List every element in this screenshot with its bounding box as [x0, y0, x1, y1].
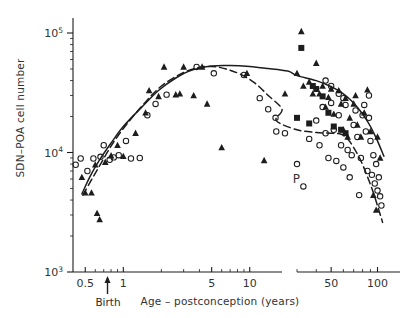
- data-point-triangle: [325, 94, 332, 100]
- data-point-circle: [371, 152, 376, 157]
- data-point-circle: [282, 131, 287, 136]
- data-point-circle: [116, 152, 121, 157]
- data-point-circle: [363, 129, 368, 134]
- data-point-circle: [334, 158, 339, 163]
- data-point-square: [313, 86, 319, 92]
- data-point-triangle: [364, 86, 371, 92]
- data-point-triangle: [346, 114, 353, 120]
- data-point-triangle: [282, 90, 289, 96]
- data-point-square: [320, 93, 326, 99]
- data-point-circle: [373, 161, 378, 166]
- data-point-circle: [257, 95, 262, 100]
- data-point-square: [325, 110, 331, 116]
- figure-sdn-poa-cell-number: 1031041050.5151050100P SDN–POA cell numb…: [0, 0, 410, 318]
- data-point-circle: [347, 175, 352, 180]
- data-point-circle: [274, 129, 279, 134]
- x-tick-label: 100: [367, 277, 388, 290]
- data-point-square: [306, 120, 312, 126]
- data-point-triangle: [180, 63, 187, 69]
- data-point-circle: [323, 78, 328, 83]
- data-point-circle: [137, 155, 142, 160]
- p-point-label: P: [293, 172, 300, 186]
- y-tick-label: 103: [44, 265, 63, 280]
- data-point-circle: [101, 143, 106, 148]
- data-point-circle: [369, 172, 374, 177]
- data-point-circle: [153, 101, 158, 106]
- data-point-circle: [85, 168, 90, 173]
- data-point-circle: [266, 107, 271, 112]
- data-point-triangle: [377, 154, 384, 160]
- data-point-circle: [376, 175, 381, 180]
- data-point-circle: [366, 115, 371, 120]
- data-point-circle: [353, 108, 358, 113]
- data-point-triangle: [79, 174, 86, 180]
- birth-annotation-label: Birth: [84, 296, 132, 308]
- data-point-circle: [356, 192, 361, 197]
- x-tick-label: 0.5: [77, 277, 95, 290]
- data-point-square: [331, 124, 337, 130]
- data-point-circle: [349, 152, 354, 157]
- data-point-circle: [314, 118, 319, 123]
- data-point-triangle: [146, 87, 153, 93]
- data-point-circle: [78, 156, 83, 161]
- data-point-circle: [306, 136, 311, 141]
- x-tick-label: 50: [324, 277, 338, 290]
- data-point-circle: [345, 147, 350, 152]
- data-point-triangle: [88, 189, 95, 195]
- data-point-circle: [211, 71, 216, 76]
- data-point-circle: [372, 181, 377, 186]
- y-axis-title: SDN–POA cell number: [14, 38, 26, 198]
- data-point-square: [294, 115, 300, 121]
- data-point-circle: [368, 138, 373, 143]
- x-tick-label: 1: [120, 277, 127, 290]
- data-point-circle: [336, 113, 341, 118]
- x-tick-label: 10: [243, 277, 257, 290]
- data-point-triangle: [352, 92, 359, 98]
- data-point-circle: [73, 162, 78, 167]
- x-tick-label: 5: [208, 277, 215, 290]
- data-point-circle: [362, 102, 367, 107]
- data-point-circle: [123, 138, 128, 143]
- data-point-triangle: [218, 144, 225, 150]
- data-point-circle: [301, 184, 306, 189]
- data-point-circle: [341, 165, 346, 170]
- data-point-triangle: [261, 157, 268, 163]
- data-point-triangle: [298, 28, 305, 34]
- data-point-circle: [294, 161, 299, 166]
- data-point-circle: [328, 100, 333, 105]
- data-point-circle: [317, 143, 322, 148]
- birth-arrow-head: [105, 276, 111, 283]
- data-point-triangle: [300, 82, 307, 88]
- data-point-triangle: [204, 100, 211, 106]
- data-point-triangle: [313, 59, 320, 65]
- data-point-circle: [377, 194, 382, 199]
- data-point-triangle: [96, 216, 103, 222]
- data-point-circle: [338, 143, 343, 148]
- y-tick-label: 104: [44, 145, 63, 160]
- data-point-circle: [128, 156, 133, 161]
- data-point-square: [298, 45, 304, 51]
- data-point-circle: [91, 156, 96, 161]
- y-tick-label: 105: [44, 26, 63, 41]
- data-point-circle: [375, 188, 380, 193]
- data-point-square: [343, 130, 349, 136]
- data-point-triangle: [177, 90, 184, 96]
- data-point-circle: [343, 102, 348, 107]
- data-point-circle: [164, 92, 169, 97]
- data-point-triangle: [155, 93, 162, 99]
- data-point-circle: [366, 93, 371, 98]
- data-point-triangle: [94, 210, 101, 216]
- plot-canvas: 1031041050.5151050100P: [0, 0, 410, 318]
- data-point-triangle: [190, 92, 197, 98]
- data-point-triangle: [294, 70, 301, 76]
- x-axis-title: Age – postconception (years): [120, 295, 320, 307]
- data-point-circle: [379, 203, 384, 208]
- data-point-triangle: [161, 63, 168, 69]
- data-point-circle: [326, 155, 331, 160]
- data-point-triangle: [132, 130, 139, 136]
- data-point-triangle: [114, 142, 121, 148]
